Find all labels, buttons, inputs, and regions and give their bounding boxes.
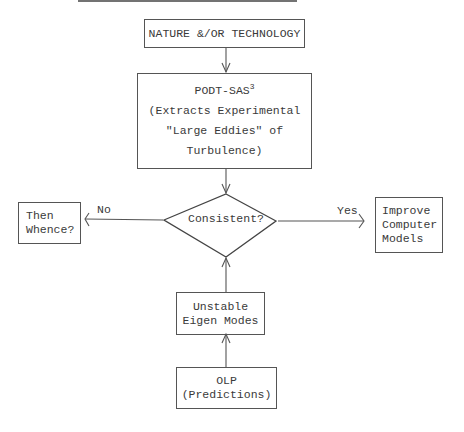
yes-target-line-3: Models (382, 232, 423, 246)
podt-line-3: Turbulence) (187, 141, 263, 161)
decision-text: Consistent? (180, 212, 272, 225)
podt-line-1: (Extracts Experimental (149, 101, 301, 121)
olp-line-1: OLP (216, 374, 237, 388)
podt-title: PODT-SAS3 (194, 81, 254, 101)
source-box: NATURE &/OR TECHNOLOGY (144, 19, 305, 48)
yes-target-line-1: Improve (382, 204, 430, 218)
podt-box: PODT-SAS3 (Extracts Experimental "Large … (137, 73, 312, 169)
source-text: NATURE &/OR TECHNOLOGY (149, 24, 301, 44)
olp-line-2: (Predictions) (182, 388, 272, 402)
no-target-line-1: Then (26, 209, 54, 223)
yes-target-box: Improve Computer Models (375, 197, 443, 253)
no-target-box: Then Whence? (18, 202, 81, 244)
eigen-box: Unstable Eigen Modes (176, 292, 265, 335)
podt-line-2: "Large Eddies" of (166, 121, 283, 141)
eigen-line-1: Unstable (193, 300, 248, 314)
eigen-line-2: Eigen Modes (183, 314, 259, 328)
no-target-line-2: Whence? (26, 223, 74, 237)
decision-diamond (164, 194, 276, 257)
yes-target-line-2: Computer (382, 218, 437, 232)
yes-label: Yes (337, 204, 358, 217)
no-label: No (97, 203, 111, 216)
olp-box: OLP (Predictions) (176, 367, 277, 409)
